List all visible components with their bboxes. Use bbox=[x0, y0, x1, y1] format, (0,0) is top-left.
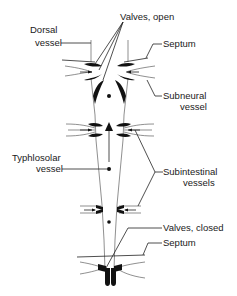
valves-closed bbox=[105, 268, 116, 286]
segment-marker-3 bbox=[107, 220, 111, 224]
label-septum-top: Septum bbox=[163, 38, 196, 49]
label-typhlosolar-line2: vessel bbox=[36, 163, 63, 174]
label-valves-closed: Valves, closed bbox=[163, 222, 224, 233]
segment-marker-2 bbox=[107, 167, 111, 171]
top-septum bbox=[62, 58, 155, 78]
label-subintestinal-line2: vessels bbox=[183, 177, 215, 188]
leader-lines bbox=[61, 22, 163, 268]
valves-lower bbox=[80, 205, 141, 214]
label-subneural-line2: vessel bbox=[180, 101, 207, 112]
main-vessel bbox=[91, 40, 128, 270]
circulatory-diagram: Valves, open Dorsal vessel Septum Subneu… bbox=[0, 0, 237, 296]
flow-arrow-up bbox=[105, 122, 113, 162]
segment-marker-1 bbox=[107, 94, 111, 98]
label-valves-open: Valves, open bbox=[120, 11, 174, 22]
label-subintestinal-line1: Subintestinal bbox=[163, 166, 217, 177]
label-dorsal-vessel-line2: vessel bbox=[35, 37, 62, 48]
label-dorsal-vessel-line1: Dorsal bbox=[30, 24, 57, 35]
label-typhlosolar-line1: Typhlosolar bbox=[12, 152, 61, 163]
label-subneural-line1: Subneural bbox=[163, 90, 206, 101]
label-septum-bottom: Septum bbox=[163, 237, 196, 248]
